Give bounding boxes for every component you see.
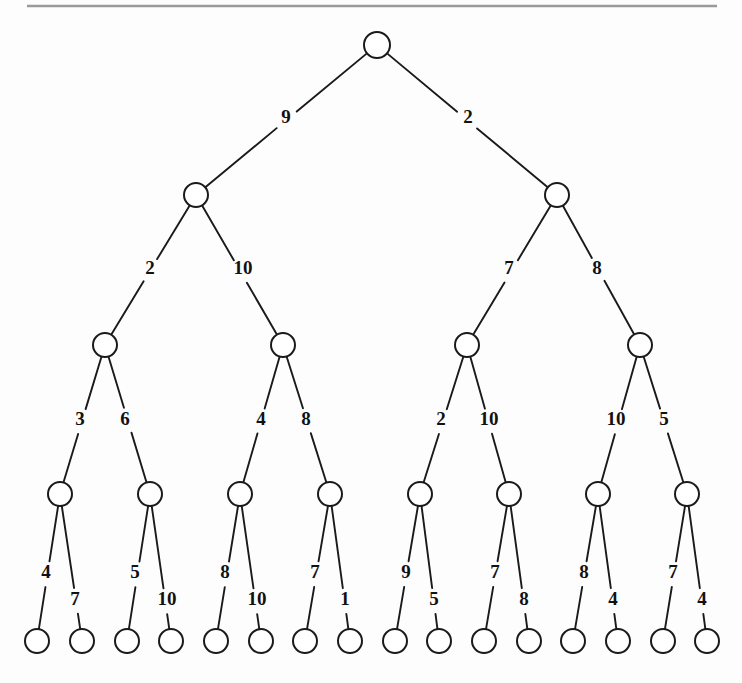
tree-edges-group (39, 54, 705, 629)
edge-weight-label: 5 (659, 408, 669, 429)
tree-node (228, 482, 252, 506)
tree-leaf-node (249, 629, 273, 653)
edge-weight-label: 10 (158, 588, 177, 609)
tree-node (184, 183, 208, 207)
tree-leaf-node (159, 629, 183, 653)
edge-weight-label: 9 (401, 561, 411, 582)
edge-weight-label: 8 (301, 408, 311, 429)
tree-diagram-page: 92210783648210105475108107195788474 (0, 0, 742, 683)
tree-node (318, 482, 342, 506)
tree-edge (152, 506, 169, 628)
tree-edge (422, 506, 438, 628)
tree-node (497, 482, 521, 506)
tree-edge (332, 506, 349, 628)
edge-weight-label: 10 (607, 408, 626, 429)
tree-node (586, 482, 610, 506)
tree-leaf-node (517, 629, 541, 653)
tree-leaf-node (427, 629, 451, 653)
tree-node (675, 482, 699, 506)
tree-node (628, 333, 652, 357)
edge-weight-label: 2 (436, 408, 446, 429)
edge-weight-label: 2 (463, 106, 473, 127)
tree-edge (242, 506, 259, 628)
edge-weight-label: 7 (70, 588, 80, 609)
tree-leaf-node (204, 629, 228, 653)
tree-node (48, 482, 72, 506)
edge-weight-label: 8 (220, 561, 230, 582)
edge-weight-label: 4 (697, 588, 707, 609)
tree-leaf-node (561, 629, 585, 653)
tree-edge (600, 506, 617, 628)
edge-weight-label: 5 (429, 588, 439, 609)
tree-leaf-node (70, 629, 94, 653)
edge-weight-label: 4 (41, 561, 51, 582)
edge-weight-label: 7 (490, 561, 500, 582)
edge-weight-label: 6 (120, 408, 130, 429)
edge-weight-label: 3 (75, 408, 85, 429)
edge-weight-label: 10 (234, 257, 253, 278)
edge-weight-label: 1 (340, 588, 350, 609)
tree-node (455, 333, 479, 357)
tree-leaf-node (25, 629, 49, 653)
tree-edge (62, 506, 80, 628)
tree-leaf-node (695, 629, 719, 653)
tree-edge (511, 506, 528, 628)
tree-nodes-group (25, 32, 719, 653)
edge-weight-label: 10 (248, 588, 267, 609)
binary-tree-figure: 92210783648210105475108107195788474 (0, 0, 742, 683)
edge-weight-label: 8 (579, 561, 589, 582)
tree-leaf-node (115, 629, 139, 653)
tree-node (545, 183, 569, 207)
edge-weight-label: 7 (310, 561, 320, 582)
edge-weight-label: 7 (668, 561, 678, 582)
edge-weight-label: 2 (145, 257, 155, 278)
edge-weight-label: 8 (592, 257, 602, 278)
tree-leaf-node (606, 629, 630, 653)
tree-node (408, 482, 432, 506)
tree-leaf-node (472, 629, 496, 653)
tree-leaf-node (338, 629, 362, 653)
tree-leaf-node (293, 629, 317, 653)
tree-node (138, 482, 162, 506)
tree-node (93, 333, 117, 357)
tree-edge (689, 506, 706, 628)
tree-leaf-node (383, 629, 407, 653)
edge-weight-label: 10 (480, 408, 499, 429)
tree-node (271, 333, 295, 357)
tree-node (364, 32, 390, 58)
edge-weight-label: 4 (608, 588, 618, 609)
edge-labels-group: 92210783648210105475108107195788474 (41, 106, 707, 609)
edge-weight-label: 9 (281, 106, 291, 127)
edge-weight-label: 7 (504, 257, 514, 278)
tree-leaf-node (651, 629, 675, 653)
edge-weight-label: 5 (130, 561, 140, 582)
edge-weight-label: 8 (519, 588, 529, 609)
edge-weight-label: 4 (256, 408, 266, 429)
